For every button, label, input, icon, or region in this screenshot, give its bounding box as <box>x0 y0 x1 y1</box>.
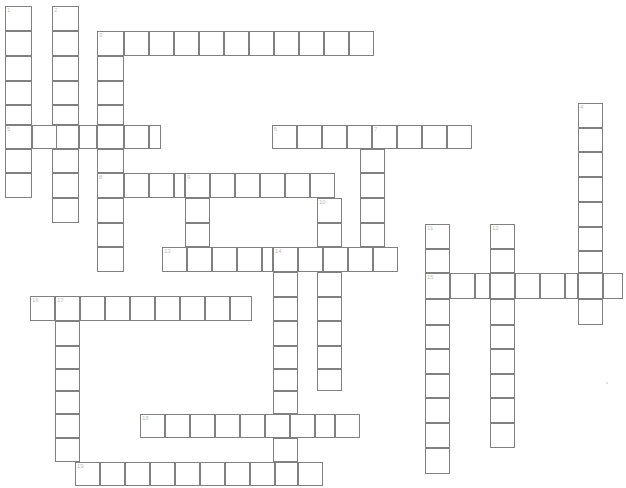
crossword-cell[interactable] <box>187 247 212 272</box>
crossword-cell[interactable] <box>52 81 79 105</box>
crossword-cell[interactable] <box>273 321 298 346</box>
crossword-cell[interactable] <box>603 273 623 299</box>
crossword-cell[interactable] <box>249 31 274 56</box>
crossword-cell[interactable] <box>149 173 174 198</box>
crossword-cell[interactable] <box>185 198 210 223</box>
crossword-cell[interactable] <box>475 273 490 299</box>
crossword-cell-clue-18[interactable]: 18 <box>140 414 165 438</box>
crossword-cell[interactable] <box>335 414 360 438</box>
crossword-cell[interactable] <box>290 414 315 438</box>
crossword-cell[interactable] <box>490 423 515 448</box>
crossword-cell[interactable] <box>347 125 372 149</box>
crossword-cell[interactable] <box>317 346 342 369</box>
crossword-cell[interactable] <box>317 223 342 247</box>
crossword-cell[interactable] <box>52 56 79 81</box>
crossword-cell[interactable] <box>315 414 335 438</box>
crossword-cell-clue-10[interactable]: 10 <box>317 198 342 223</box>
crossword-cell[interactable] <box>565 273 578 299</box>
crossword-cell[interactable] <box>578 202 603 227</box>
crossword-cell[interactable] <box>310 173 335 198</box>
crossword-cell[interactable] <box>52 149 79 173</box>
crossword-cell[interactable] <box>265 414 290 438</box>
crossword-cell-clue-2[interactable]: 2 <box>52 6 79 31</box>
crossword-cell[interactable] <box>360 198 385 223</box>
crossword-cell[interactable] <box>490 398 515 423</box>
crossword-cell[interactable] <box>317 297 342 321</box>
crossword-cell[interactable] <box>175 462 200 486</box>
crossword-cell-clue-13[interactable]: 13 <box>162 247 187 272</box>
crossword-cell[interactable] <box>262 247 273 272</box>
crossword-cell[interactable] <box>299 31 324 56</box>
crossword-cell[interactable] <box>97 56 124 81</box>
crossword-cell[interactable] <box>5 81 32 105</box>
crossword-cell-clue-12[interactable]: 12 <box>490 224 515 249</box>
crossword-cell[interactable] <box>425 325 450 349</box>
crossword-cell[interactable] <box>174 173 185 198</box>
crossword-cell[interactable] <box>237 247 262 272</box>
crossword-cell[interactable] <box>149 125 161 149</box>
crossword-cell[interactable] <box>124 125 149 149</box>
crossword-cell-clue-17[interactable]: 17 <box>55 296 80 321</box>
crossword-cell[interactable] <box>273 369 298 391</box>
crossword-cell[interactable] <box>323 247 348 272</box>
crossword-cell[interactable] <box>190 414 215 438</box>
crossword-cell[interactable] <box>273 391 298 414</box>
crossword-cell-clue-8[interactable]: 8 <box>97 173 124 198</box>
crossword-cell[interactable] <box>97 149 124 173</box>
crossword-cell-clue-6[interactable]: 6 <box>272 125 297 149</box>
crossword-cell[interactable] <box>297 125 322 149</box>
crossword-cell[interactable] <box>97 198 124 223</box>
crossword-cell[interactable] <box>5 105 32 125</box>
crossword-cell[interactable] <box>230 296 252 321</box>
crossword-cell[interactable] <box>349 31 374 56</box>
crossword-cell[interactable] <box>97 81 124 105</box>
crossword-cell[interactable] <box>210 173 235 198</box>
crossword-cell[interactable] <box>155 296 180 321</box>
crossword-cell[interactable] <box>360 149 385 173</box>
crossword-cell[interactable] <box>5 149 32 173</box>
crossword-cell[interactable] <box>490 249 515 273</box>
crossword-cell[interactable] <box>273 346 298 369</box>
crossword-cell[interactable] <box>578 251 603 273</box>
crossword-cell[interactable] <box>322 125 347 149</box>
crossword-cell-clue-15[interactable]: 15 <box>425 273 450 299</box>
crossword-cell[interactable] <box>200 462 225 486</box>
crossword-cell[interactable] <box>578 227 603 251</box>
crossword-cell[interactable] <box>174 31 199 56</box>
crossword-cell[interactable] <box>250 462 275 486</box>
crossword-cell[interactable] <box>55 369 80 391</box>
crossword-cell[interactable] <box>324 31 349 56</box>
crossword-cell[interactable] <box>298 247 323 272</box>
crossword-cell[interactable] <box>225 462 250 486</box>
crossword-cell[interactable] <box>317 369 342 391</box>
crossword-cell[interactable] <box>55 391 80 414</box>
crossword-cell[interactable] <box>450 273 475 299</box>
crossword-cell[interactable] <box>105 296 130 321</box>
crossword-cell[interactable] <box>97 105 124 125</box>
crossword-cell[interactable] <box>422 125 447 149</box>
crossword-cell-clue-5[interactable]: 5 <box>5 125 32 149</box>
crossword-cell[interactable] <box>55 438 80 462</box>
crossword-cell[interactable] <box>425 249 450 273</box>
crossword-cell[interactable] <box>490 299 515 325</box>
crossword-cell[interactable] <box>97 223 124 247</box>
crossword-cell[interactable] <box>5 56 32 81</box>
crossword-cell[interactable] <box>578 152 603 177</box>
crossword-cell[interactable] <box>212 247 237 272</box>
crossword-cell[interactable] <box>32 125 57 149</box>
crossword-cell[interactable] <box>273 438 298 462</box>
crossword-cell[interactable] <box>240 414 265 438</box>
crossword-cell[interactable] <box>55 346 80 369</box>
crossword-cell[interactable] <box>55 321 80 346</box>
crossword-cell-clue-9[interactable]: 9 <box>185 173 210 198</box>
crossword-cell[interactable] <box>52 105 79 125</box>
crossword-cell[interactable] <box>490 349 515 374</box>
crossword-cell[interactable] <box>425 349 450 374</box>
crossword-cell[interactable] <box>373 247 398 272</box>
crossword-cell[interactable] <box>275 462 298 486</box>
crossword-cell-clue-16[interactable]: 16 <box>30 296 55 321</box>
crossword-cell[interactable] <box>124 31 149 56</box>
crossword-cell[interactable] <box>165 414 190 438</box>
crossword-cell[interactable] <box>5 173 32 198</box>
crossword-cell[interactable] <box>298 462 323 486</box>
